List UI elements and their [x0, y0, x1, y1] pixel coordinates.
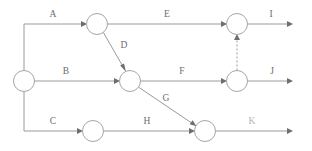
edge-g-arrowhead: [190, 120, 197, 126]
edge-j-arrowhead: [287, 78, 293, 84]
edge-a-line: [24, 24, 82, 71]
start-node[interactable]: [14, 71, 35, 92]
edge-label-i: I: [269, 9, 272, 19]
node-f-end[interactable]: [227, 71, 248, 92]
network-diagram-canvas: A B C D E F G H I J K: [0, 0, 312, 151]
node-e-end[interactable]: [227, 14, 248, 35]
edge-label-d: D: [121, 40, 128, 50]
edge-label-b: B: [63, 66, 69, 76]
node-b-end[interactable]: [120, 71, 141, 92]
edge-label-c: C: [50, 116, 56, 126]
edge-label-a: A: [50, 9, 57, 19]
edge-i-arrowhead: [287, 21, 293, 27]
edge-label-g: G: [163, 93, 170, 103]
edge-label-j: J: [270, 66, 274, 76]
edge-d-arrowhead: [120, 63, 126, 71]
activity-network-diagram: A B C D E F G H I J K: [0, 0, 312, 151]
node-h-end[interactable]: [195, 121, 216, 142]
edge-label-e: E: [164, 9, 170, 19]
edge-label-h: H: [144, 116, 151, 126]
node-c-end[interactable]: [83, 121, 104, 142]
edge-label-k: K: [249, 116, 256, 126]
edge-label-f: F: [179, 66, 184, 76]
node-a-end[interactable]: [87, 14, 108, 35]
edge-k-arrowhead: [287, 128, 293, 134]
